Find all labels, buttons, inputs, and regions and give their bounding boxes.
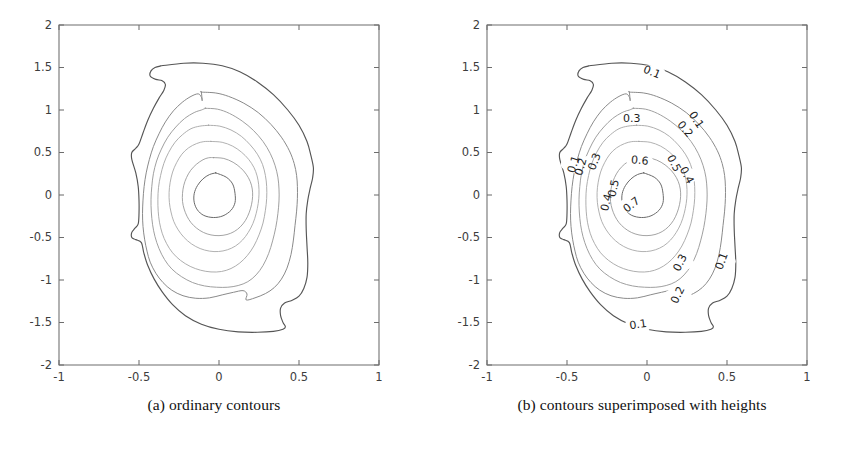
contour-label: 0.3 [670,252,690,274]
contour-label: 0.7 [621,194,643,215]
y-tick-label: -0.5 [458,230,480,244]
plot-area-b: -1-0.500.51-2-1.5-1-0.500.511.520.10.10.… [428,0,856,392]
contour-label: 0.2 [668,284,687,305]
y-tick-label: -1.5 [458,315,480,329]
contour-label: 0.5 [606,178,622,198]
contour-line-0_2 [143,91,298,300]
contour-label: 0.1 [713,251,731,272]
y-tick-label: 0 [45,188,52,202]
x-tick-label: -0.5 [556,370,578,384]
x-tick-label: 0.5 [718,370,736,384]
y-tick-label: -1 [41,273,52,287]
contour-line-0_6 [182,158,252,236]
contour-plot-b: -1-0.500.51-2-1.5-1-0.500.511.520.10.10.… [428,0,856,392]
y-tick-label: -2 [41,358,52,372]
y-tick-label: -2 [469,358,480,372]
x-tick-label: -1 [481,370,492,384]
axis-box [59,25,379,365]
x-tick-label: -0.5 [128,370,150,384]
contour-label: 0.3 [623,112,641,125]
contour-label: 0.1 [629,317,648,332]
y-tick-label: 2 [473,18,480,32]
x-tick-label: -1 [53,370,64,384]
y-tick-label: -0.5 [30,230,52,244]
y-tick-label: 0 [473,188,480,202]
y-tick-label: 1 [45,103,52,117]
contour-line-0_4 [158,125,267,272]
panel-labeled-contours: -1-0.500.51-2-1.5-1-0.500.511.520.10.10.… [428,0,856,450]
contour-figure: -1-0.500.51-2-1.5-1-0.500.511.52 (a) ord… [0,0,856,450]
x-tick-label: 0.5 [290,370,308,384]
y-tick-label: 1.5 [34,60,52,74]
contour-label: 0.3 [585,151,603,172]
x-tick-label: 0 [215,370,222,384]
x-tick-label: 1 [375,370,382,384]
y-tick-label: 2 [45,18,52,32]
y-tick-label: -1 [469,273,480,287]
contour-plot-a: -1-0.500.51-2-1.5-1-0.500.511.52 [0,0,428,392]
contour-line-0_3 [151,108,279,287]
panel-ordinary-contours: -1-0.500.51-2-1.5-1-0.500.511.52 (a) ord… [0,0,428,450]
x-tick-label: 0 [643,370,650,384]
y-tick-label: 0.5 [34,145,52,159]
y-tick-label: 0.5 [462,145,480,159]
y-tick-label: 1.5 [462,60,480,74]
contour-line-0_1 [131,63,313,332]
contour-label: 0.1 [641,63,662,82]
caption-a: (a) ordinary contours [0,396,428,414]
y-tick-label: 1 [473,103,480,117]
contour-line-0_7 [194,173,236,218]
y-tick-label: -1.5 [30,315,52,329]
contour-line-0_1 [559,63,741,332]
contour-label: 0.6 [631,153,650,167]
x-tick-label: 1 [803,370,810,384]
plot-area-a: -1-0.500.51-2-1.5-1-0.500.511.52 [0,0,428,392]
caption-b: (b) contours superimposed with heights [428,396,856,414]
